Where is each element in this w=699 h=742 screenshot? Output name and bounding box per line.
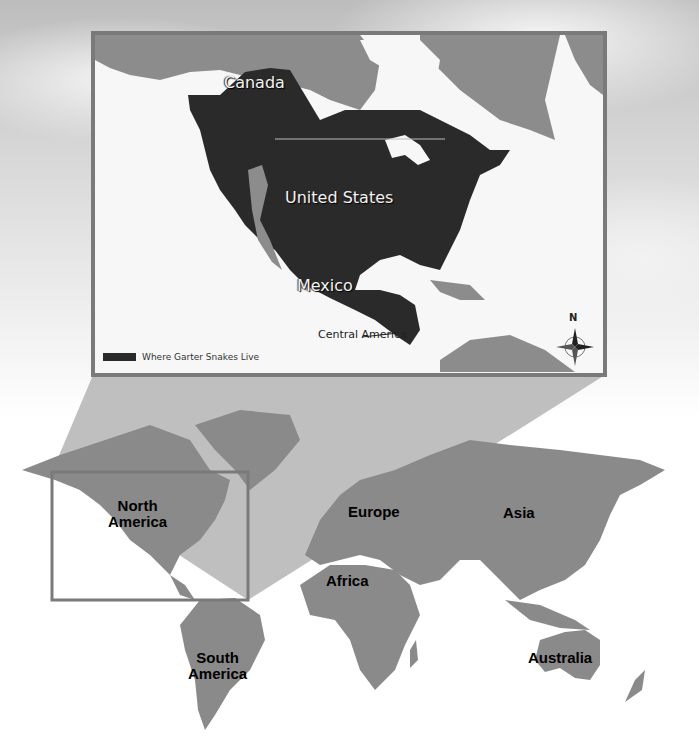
label-canada: Canada — [224, 73, 285, 92]
compass-star-icon — [552, 324, 598, 370]
label-australia: Australia — [528, 650, 592, 666]
inset-map — [0, 0, 699, 742]
map-legend: Where Garter Snakes Live — [103, 352, 259, 362]
label-asia: Asia — [503, 505, 535, 521]
compass-rose-icon: N — [552, 312, 598, 368]
compass-north-label: N — [569, 312, 577, 323]
label-europe: Europe — [348, 504, 400, 520]
label-central-america: Central America — [318, 328, 407, 341]
label-north-america: North America — [108, 498, 167, 530]
label-africa: Africa — [326, 573, 369, 589]
label-south-america: South America — [188, 650, 247, 682]
legend-text: Where Garter Snakes Live — [142, 352, 259, 362]
label-united-states: United States — [285, 188, 393, 207]
legend-swatch — [103, 353, 136, 361]
label-mexico: Mexico — [297, 276, 353, 295]
